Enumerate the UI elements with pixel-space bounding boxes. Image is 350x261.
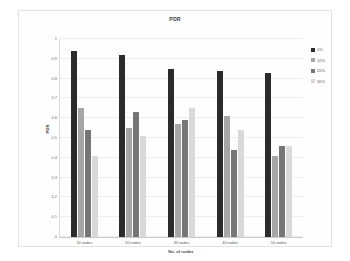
x-axis-title: No. of nodes xyxy=(59,249,303,254)
chart-title: PDR xyxy=(19,16,331,22)
bar-series-1[interactable] xyxy=(224,116,230,237)
chart-frame: PDR PDR 00.10.20.30.40.50.60.70.80.91 10… xyxy=(18,10,332,247)
y-tick-label: 0.5 xyxy=(51,135,57,140)
legend-item-30pct[interactable]: 30% xyxy=(311,79,325,84)
y-tick-label: 0.7 xyxy=(51,95,57,100)
bar-series-0[interactable] xyxy=(265,73,271,237)
bar-groups: 10 nodes20 nodes30 nodes40 nodes50 nodes xyxy=(60,39,303,237)
bar-series-3[interactable] xyxy=(92,156,98,237)
bar-group: 40 nodes xyxy=(217,39,244,237)
y-tick-label: 0.8 xyxy=(51,75,57,80)
y-tick-label: 0.2 xyxy=(51,194,57,199)
bar-series-0[interactable] xyxy=(119,55,125,237)
bar-series-0[interactable] xyxy=(71,51,77,237)
y-tick-label: 0.3 xyxy=(51,174,57,179)
bar-series-1[interactable] xyxy=(126,128,132,237)
chart-legend: 0%10%20%30% xyxy=(311,47,325,84)
x-tick-label: 20 nodes xyxy=(125,241,141,245)
x-tick-label: 30 nodes xyxy=(174,241,190,245)
plot-area: 00.10.20.30.40.50.60.70.80.91 10 nodes20… xyxy=(59,39,303,238)
y-tick-label: 0.9 xyxy=(51,55,57,60)
bar-series-2[interactable] xyxy=(133,112,139,237)
legend-label: 30% xyxy=(317,79,325,84)
bar-series-3[interactable] xyxy=(286,146,292,237)
y-axis-title: PDR xyxy=(45,124,50,133)
y-tick-label: 0.4 xyxy=(51,154,57,159)
legend-swatch-icon xyxy=(311,58,315,62)
y-tick-label: 1 xyxy=(55,36,57,41)
bar-series-2[interactable] xyxy=(231,150,237,237)
bar-series-3[interactable] xyxy=(189,108,195,237)
chart-page: PDR PDR 00.10.20.30.40.50.60.70.80.91 10… xyxy=(0,0,350,261)
bar-series-2[interactable] xyxy=(279,146,285,237)
y-tick-label: 0.6 xyxy=(51,115,57,120)
bar-series-0[interactable] xyxy=(168,69,174,237)
bar-group: 10 nodes xyxy=(71,39,98,237)
bar-series-3[interactable] xyxy=(238,130,244,237)
legend-item-20pct[interactable]: 20% xyxy=(311,68,325,73)
legend-label: 0% xyxy=(317,47,323,52)
legend-swatch-icon xyxy=(311,48,315,52)
bar-series-3[interactable] xyxy=(140,136,146,237)
legend-label: 20% xyxy=(317,68,325,73)
bar-series-1[interactable] xyxy=(272,156,278,237)
bar-series-1[interactable] xyxy=(175,124,181,237)
bar-series-2[interactable] xyxy=(182,120,188,237)
y-tick-label: 0.1 xyxy=(51,214,57,219)
bar-series-1[interactable] xyxy=(78,108,84,237)
x-tick-label: 10 nodes xyxy=(76,241,92,245)
bar-group: 30 nodes xyxy=(168,39,195,237)
bar-group: 20 nodes xyxy=(119,39,146,237)
y-tick-label: 0 xyxy=(55,234,57,239)
bar-series-2[interactable] xyxy=(85,130,91,237)
legend-label: 10% xyxy=(317,58,325,63)
x-tick-label: 40 nodes xyxy=(222,241,238,245)
legend-swatch-icon xyxy=(311,79,315,83)
bar-group: 50 nodes xyxy=(265,39,292,237)
legend-item-0pct[interactable]: 0% xyxy=(311,47,325,52)
x-tick-label: 50 nodes xyxy=(271,241,287,245)
legend-item-10pct[interactable]: 10% xyxy=(311,58,325,63)
bar-series-0[interactable] xyxy=(217,71,223,237)
legend-swatch-icon xyxy=(311,69,315,73)
